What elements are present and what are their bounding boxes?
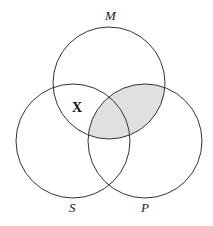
label-m: M: [104, 8, 117, 23]
venn-diagram: M S P X: [0, 0, 213, 226]
label-s: S: [69, 200, 76, 215]
shaded-region-m-p: [88, 84, 202, 198]
x-marker: X: [72, 100, 82, 115]
label-p: P: [140, 200, 149, 215]
